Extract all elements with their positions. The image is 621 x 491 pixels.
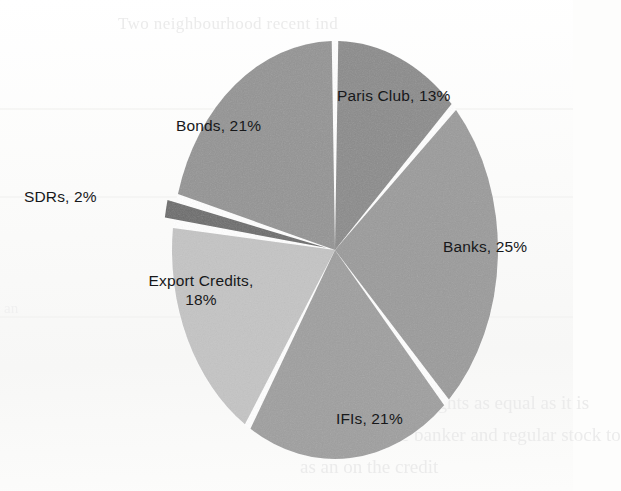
slice-label-banks: Banks, 25%	[443, 237, 527, 256]
slice-label-sdrs: SDRs, 2%	[24, 187, 97, 206]
slice-label-paris-club: Paris Club, 13%	[337, 86, 450, 105]
slice-label-ifis: IFIs, 21%	[336, 409, 403, 428]
slice-label-export-credits: Export Credits, 18%	[141, 271, 261, 309]
slice-label-export-credits-line2: 18%	[185, 291, 216, 308]
slice-label-bonds: Bonds, 21%	[176, 116, 261, 135]
slice-label-export-credits-line1: Export Credits,	[149, 272, 254, 289]
